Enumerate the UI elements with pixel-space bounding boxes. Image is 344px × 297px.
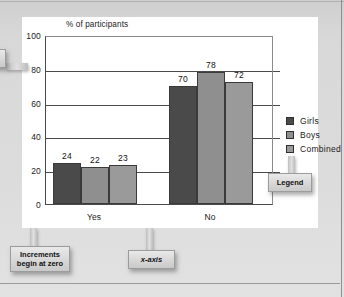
bar[interactable] <box>225 82 253 204</box>
bar[interactable] <box>169 86 197 204</box>
bar-slot: 72 <box>225 37 253 204</box>
y-axis-tick-label: 40 <box>31 132 41 142</box>
legend-swatch-icon <box>286 117 294 125</box>
bar[interactable] <box>109 165 137 204</box>
bar-group: 707872 <box>169 37 253 204</box>
bar-slot: 70 <box>169 37 197 204</box>
callout-yaxis: y-axis <box>0 49 6 68</box>
callout-pointer-increments <box>30 228 37 248</box>
bar-value-label: 23 <box>109 153 137 163</box>
y-axis-tick-label: 100 <box>26 31 41 41</box>
page-top-border <box>0 1 344 2</box>
legend-item[interactable]: Combined <box>286 142 341 156</box>
callout-legend: Legend <box>268 173 312 192</box>
plot-area: 242223707872 <box>45 36 273 205</box>
legend-item-label: Boys <box>300 130 320 140</box>
axis-tick <box>273 71 280 72</box>
legend-item-label: Girls <box>300 116 319 126</box>
chart-legend: GirlsBoysCombined <box>286 114 341 156</box>
x-axis-category-label: Yes <box>52 212 136 222</box>
y-axis-tick-label: 80 <box>31 65 41 75</box>
legend-item[interactable]: Boys <box>286 128 341 142</box>
page-bottom-rule <box>0 283 340 284</box>
y-axis-tick-label: 0 <box>36 200 41 210</box>
bar-value-label: 70 <box>169 74 197 84</box>
y-axis-tick-labels: 100806040200 <box>21 36 41 205</box>
page-background: % of participants 100806040200 242223707… <box>0 0 344 297</box>
legend-item[interactable]: Girls <box>286 114 341 128</box>
callout-increments-begin-at-zero: Increments begin at zero <box>10 246 70 272</box>
y-axis-tick-label: 60 <box>31 99 41 109</box>
bar-slot: 78 <box>197 37 225 204</box>
chart-title: % of participants <box>66 20 128 29</box>
callout-pointer-yaxis <box>6 63 28 70</box>
chart-card: % of participants 100806040200 242223707… <box>22 17 318 228</box>
bar-value-label: 72 <box>225 70 253 80</box>
bar[interactable] <box>197 72 225 204</box>
bar[interactable] <box>81 167 109 204</box>
axis-tick <box>273 138 280 139</box>
bar-value-label: 78 <box>197 60 225 70</box>
bar-slot: 23 <box>109 37 137 204</box>
y-axis-tick-label: 20 <box>31 166 41 176</box>
bar-slot: 22 <box>81 37 109 204</box>
callout-xaxis: x-axis <box>128 250 175 269</box>
axis-tick <box>273 105 280 106</box>
x-axis-category-label: No <box>168 212 252 222</box>
bar[interactable] <box>53 163 81 204</box>
legend-swatch-icon <box>286 145 294 153</box>
bar-slot: 24 <box>53 37 81 204</box>
callout-pointer-xaxis <box>146 228 153 252</box>
bar-value-label: 24 <box>53 151 81 161</box>
bar-value-label: 22 <box>81 155 109 165</box>
legend-item-label: Combined <box>300 144 341 154</box>
bar-group: 242223 <box>53 37 137 204</box>
legend-swatch-icon <box>286 131 294 139</box>
